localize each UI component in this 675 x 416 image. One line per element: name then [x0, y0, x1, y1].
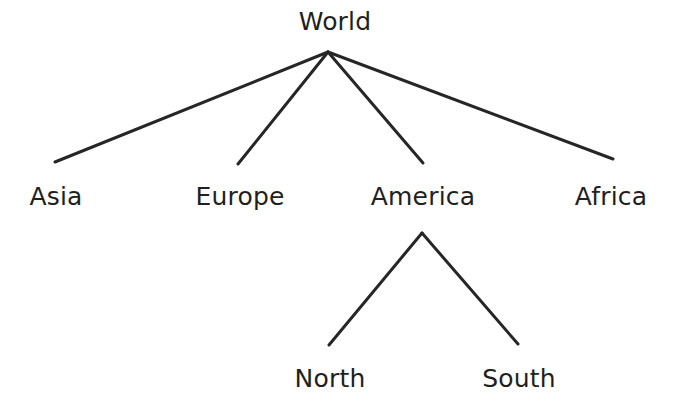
tree-node-south[interactable]: South: [482, 366, 556, 391]
tree-edge-america-north: [329, 233, 422, 345]
tree-edge-america-south: [422, 233, 518, 344]
tree-node-world[interactable]: World: [299, 9, 372, 34]
tree-node-north[interactable]: North: [295, 366, 366, 391]
tree-node-america[interactable]: America: [371, 184, 476, 209]
tree-diagram-canvas: WorldAsiaEuropeAmericaAfricaNorthSouth: [0, 0, 675, 416]
tree-node-asia[interactable]: Asia: [29, 184, 82, 209]
tree-edge-world-asia: [55, 52, 328, 162]
tree-node-africa[interactable]: Africa: [575, 184, 648, 209]
tree-node-europe[interactable]: Europe: [195, 184, 284, 209]
tree-edge-world-africa: [328, 52, 613, 159]
